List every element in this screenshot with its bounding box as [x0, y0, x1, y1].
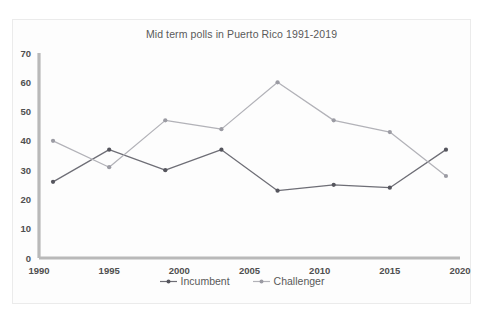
y-axis-tick-70: 70: [20, 48, 31, 59]
data-point-incumbent-1995: [107, 148, 111, 152]
data-point-challenger-2019: [444, 174, 448, 178]
y-axis-tick-60: 60: [20, 77, 31, 88]
legend-marker-challenger-icon: [252, 277, 271, 286]
chart-legend: Incumbent Challenger: [13, 275, 470, 287]
legend-item-challenger[interactable]: Challenger: [252, 275, 325, 287]
data-point-incumbent-2015: [388, 186, 392, 190]
data-point-incumbent-2003: [219, 148, 223, 152]
data-point-incumbent-1991: [51, 180, 55, 184]
y-axis-tick-10: 10: [20, 223, 31, 234]
y-axis-tick-0: 0: [26, 253, 31, 264]
y-axis-tick-40: 40: [20, 135, 31, 146]
data-point-challenger-1991: [51, 139, 55, 143]
data-point-incumbent-1999: [163, 168, 167, 172]
data-point-incumbent-2019: [444, 148, 448, 152]
y-axis-tick-labels: 010203040506070: [20, 48, 31, 264]
chart-card: Mid term polls in Puerto Rico 1991-2019 …: [12, 19, 471, 304]
y-axis-tick-30: 30: [20, 165, 31, 176]
y-axis-tick-50: 50: [20, 106, 31, 117]
line-chart-plot: 010203040506070 199019952000200520102015…: [13, 20, 472, 305]
legend-marker-incumbent-icon: [159, 277, 178, 286]
data-point-challenger-2007: [275, 80, 279, 84]
y-axis-tick-20: 20: [20, 194, 31, 205]
data-point-challenger-1995: [107, 165, 111, 169]
legend-item-incumbent[interactable]: Incumbent: [159, 275, 230, 287]
series-markers: [51, 80, 448, 193]
series-line-incumbent: [53, 150, 446, 191]
legend-label-challenger: Challenger: [274, 275, 325, 287]
data-point-challenger-2011: [332, 118, 336, 122]
legend-label-incumbent: Incumbent: [181, 275, 230, 287]
series-line-challenger: [53, 82, 446, 176]
data-point-challenger-1999: [163, 118, 167, 122]
series-polylines: [53, 82, 446, 190]
data-point-challenger-2015: [388, 130, 392, 134]
data-point-incumbent-2011: [332, 183, 336, 187]
data-point-challenger-2003: [219, 127, 223, 131]
data-point-incumbent-2007: [275, 189, 279, 193]
